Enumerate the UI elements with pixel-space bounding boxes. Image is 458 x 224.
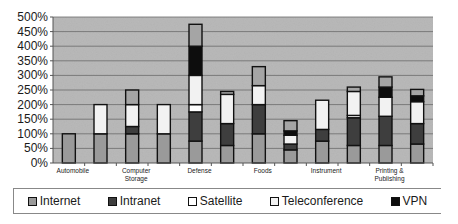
bar-segment-intranet	[411, 124, 424, 144]
bar-segment-teleconference	[126, 105, 139, 127]
legend-item-teleconference: Teleconference	[270, 194, 363, 208]
legend-swatch	[108, 197, 117, 206]
legend: InternetIntranetSatelliteTeleconferenceV…	[13, 188, 441, 214]
legend-swatch	[188, 197, 197, 206]
bar-segment-teleconference	[411, 102, 424, 124]
bar-segment-intranet	[284, 144, 297, 150]
y-tick-label: 100%	[17, 127, 48, 141]
bar-segment-teleconference	[157, 105, 170, 134]
bar-segment-vpn	[379, 87, 392, 97]
y-tick-label: 500%	[17, 10, 48, 24]
y-tick-label: 450%	[17, 25, 48, 39]
bar-segment-other	[221, 91, 234, 94]
x-tick-label-line2: Publishing	[375, 175, 405, 183]
bar-stack	[284, 121, 297, 163]
bar-segment-other	[126, 90, 139, 105]
legend-label: Satellite	[200, 194, 243, 208]
bar-segment-teleconference	[347, 91, 360, 115]
bar-segment-teleconference	[189, 75, 202, 104]
bar-segment-internet	[379, 145, 392, 163]
bar-segment-other	[347, 87, 360, 91]
bar-segment-teleconference	[221, 94, 234, 123]
x-tick-label-line2: Storage	[125, 175, 148, 183]
bar-segment-other	[284, 121, 297, 131]
legend-swatch	[28, 197, 37, 206]
y-tick-label: 300%	[17, 68, 48, 82]
bar-stack	[221, 91, 234, 163]
stacked-bar-chart: 0%50%100%150%200%250%300%350%400%450%500…	[0, 0, 458, 188]
bar-segment-teleconference	[316, 100, 329, 129]
legend-label: VPN	[403, 194, 428, 208]
legend-label: Intranet	[120, 194, 161, 208]
bar-segment-teleconference	[379, 97, 392, 116]
legend-item-vpn: VPN	[391, 194, 428, 208]
legend-swatch	[270, 197, 279, 206]
y-tick-label: 150%	[17, 112, 48, 126]
bar-segment-intranet	[252, 105, 265, 134]
bar-segment-satellite	[189, 105, 202, 112]
bar-stack	[94, 105, 107, 163]
legend-item-satellite: Satellite	[188, 194, 243, 208]
bar-segment-internet	[347, 145, 360, 163]
y-tick-label: 0%	[31, 156, 49, 170]
bar-segment-other	[411, 89, 424, 95]
bar-stack	[347, 87, 360, 163]
bar-stack	[157, 105, 170, 163]
bar-segment-intranet	[221, 124, 234, 146]
y-tick-label: 250%	[17, 83, 48, 97]
bar-segment-internet	[157, 134, 170, 163]
x-tick-label: Foods	[254, 167, 273, 174]
bar-segment-internet	[126, 134, 139, 163]
bar-segment-other	[379, 77, 392, 87]
bar-segment-intranet	[189, 112, 202, 141]
x-tick-label: Computer	[122, 167, 151, 175]
bar-segment-internet	[252, 134, 265, 163]
bar-segment-vpn	[189, 46, 202, 75]
bar-stack	[189, 24, 202, 163]
legend-item-internet: Internet	[28, 194, 81, 208]
bar-stack	[411, 89, 424, 163]
y-tick-label: 400%	[17, 39, 48, 53]
bar-segment-teleconference	[94, 105, 107, 134]
legend-label: Teleconference	[282, 194, 363, 208]
bar-segment-intranet	[316, 129, 329, 141]
bar-segment-internet	[189, 141, 202, 163]
bar-stack	[126, 90, 139, 163]
bar-segment-other	[252, 67, 265, 86]
x-tick-label: Defense	[187, 167, 212, 174]
bar-stack	[62, 134, 75, 163]
x-tick-label: Printing &	[375, 167, 404, 175]
bar-segment-teleconference	[252, 86, 265, 105]
bar-segment-internet	[411, 144, 424, 163]
bar-segment-internet	[94, 134, 107, 163]
bar-segment-internet	[316, 141, 329, 163]
legend-swatch	[391, 197, 400, 206]
bar-segment-intranet	[379, 116, 392, 145]
bar-segment-internet	[284, 150, 297, 163]
bar-segment-internet	[62, 134, 75, 163]
bar-segment-internet	[221, 145, 234, 163]
bar-stack	[252, 67, 265, 163]
legend-label: Internet	[40, 194, 81, 208]
bar-stack	[316, 100, 329, 163]
bar-segment-vpn	[411, 96, 424, 102]
y-tick-label: 350%	[17, 54, 48, 68]
legend-item-intranet: Intranet	[108, 194, 161, 208]
x-tick-label: Automobile	[57, 167, 90, 174]
y-tick-label: 200%	[17, 98, 48, 112]
y-tick-label: 50%	[24, 141, 48, 155]
bar-segment-intranet	[126, 127, 139, 134]
bar-segment-intranet	[347, 118, 360, 146]
x-tick-label: Instrument	[311, 167, 342, 174]
bar-stack	[379, 77, 392, 163]
bar-segment-other	[189, 24, 202, 46]
bar-segment-teleconference	[284, 135, 297, 144]
